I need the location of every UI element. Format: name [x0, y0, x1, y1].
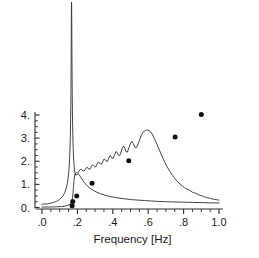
frequency-response-plot: 0.1.2.3.4..0.2.4.6.81.0Frequency [Hz] — [0, 0, 259, 258]
x-tick-label: .4 — [108, 216, 117, 228]
y-tick-label: 3. — [21, 132, 30, 144]
data-point-marker — [199, 112, 204, 117]
data-point-marker — [70, 199, 75, 204]
y-tick-label: 1. — [21, 178, 30, 190]
data-point-marker — [70, 203, 75, 208]
data-point-marker — [90, 181, 95, 186]
chart-figure: 0.1.2.3.4..0.2.4.6.81.0Frequency [Hz] — [0, 0, 259, 258]
data-point-marker — [173, 134, 178, 139]
x-tick-label: .2 — [73, 216, 82, 228]
x-tick-label: 1.0 — [211, 216, 226, 228]
data-point-marker — [126, 158, 131, 163]
data-point-marker — [74, 193, 79, 198]
x-axis-title: Frequency [Hz] — [94, 233, 172, 245]
scatter-layer — [70, 112, 204, 208]
narrow-resonance-curve — [42, 2, 219, 204]
x-tick-label: .8 — [179, 216, 188, 228]
y-tick-label: 4. — [21, 109, 30, 121]
x-tick-label: .0 — [37, 216, 46, 228]
axis-labels: 0.1.2.3.4..0.2.4.6.81.0Frequency [Hz] — [21, 109, 227, 245]
curve-layer — [42, 2, 219, 207]
y-tick-label: 0. — [21, 202, 30, 214]
y-tick-label: 2. — [21, 155, 30, 167]
x-tick-label: .6 — [144, 216, 153, 228]
